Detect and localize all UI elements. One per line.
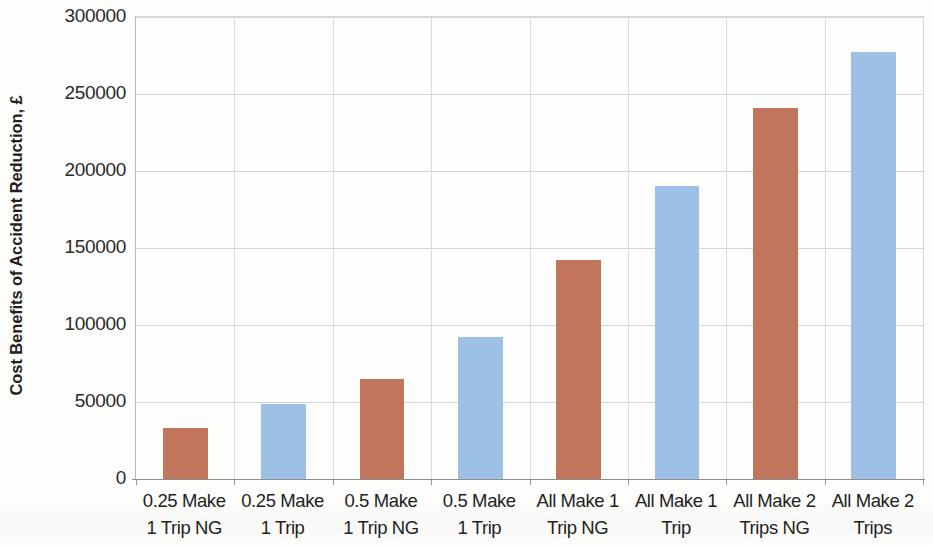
bar [261, 404, 306, 479]
gridline [628, 17, 629, 479]
bar [851, 52, 896, 479]
x-axis-tick-label: 0.5 Make 1 Trip NG [328, 487, 434, 541]
x-axis-tick-label: 0.5 Make 1 Trip [426, 487, 532, 541]
y-axis-tick-label: 0 [14, 468, 126, 487]
bar [556, 260, 601, 479]
bar [655, 186, 700, 479]
x-axis-tick-labels: 0.25 Make 1 Trip NG0.25 Make 1 Trip0.5 M… [135, 487, 922, 546]
y-axis-tick-label: 100000 [14, 314, 126, 333]
x-axis-tick-label: All Make 1 Trip [623, 487, 729, 541]
x-axis-tick-label: All Make 1 Trip NG [525, 487, 631, 541]
gridline [333, 17, 334, 479]
bar [753, 108, 798, 479]
y-axis-tick-label: 200000 [14, 160, 126, 179]
bar [163, 428, 208, 479]
y-axis-tick-label: 300000 [14, 6, 126, 25]
x-axis-tick-label: All Make 2 Trips NG [721, 487, 827, 541]
gridline [431, 17, 432, 479]
y-axis-tick-labels: 300000250000200000150000100000500000 [8, 0, 126, 546]
x-axis-line [132, 479, 925, 480]
x-axis-tick-label: 0.25 Make 1 Trip [229, 487, 335, 541]
bar [458, 337, 503, 479]
gridline [726, 17, 727, 479]
bar-chart: Cost Benefits of Accident Reduction, £ 3… [0, 0, 933, 546]
bar [360, 379, 405, 479]
gridline [530, 17, 531, 479]
y-axis-tick-label: 150000 [14, 237, 126, 256]
plot-area [135, 16, 924, 479]
y-axis-tick-label: 50000 [14, 391, 126, 410]
x-axis-tick-label: 0.25 Make 1 Trip NG [131, 487, 237, 541]
gridline [825, 17, 826, 479]
gridline [234, 17, 235, 479]
x-axis-tick-label: All Make 2 Trips [820, 487, 926, 541]
y-axis-tick-label: 250000 [14, 83, 126, 102]
